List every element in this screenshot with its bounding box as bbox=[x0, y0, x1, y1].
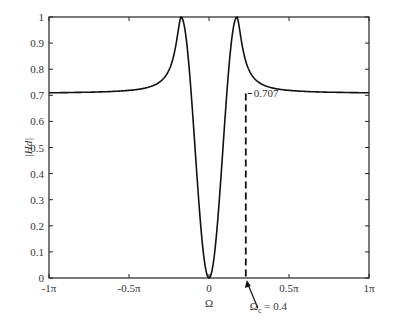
y-tick-label: 0.1 bbox=[30, 246, 44, 258]
x-tick-label: 1π bbox=[363, 282, 375, 294]
plot-frame bbox=[49, 17, 369, 278]
magnitude-response-chart: 00.10.20.30.40.50.60.70.80.91-1π-0.5π00.… bbox=[0, 0, 395, 321]
y-tick-label: 0.7 bbox=[30, 89, 44, 101]
y-tick-label: 0.4 bbox=[30, 168, 44, 180]
level-annotation: 0.707 bbox=[254, 87, 279, 99]
x-tick-label: 0 bbox=[206, 282, 212, 294]
y-axis-label: |Hd| bbox=[22, 138, 34, 158]
y-tick-label: 0.2 bbox=[30, 220, 44, 232]
cutoff-value: = 0.4 bbox=[262, 300, 288, 312]
x-tick-label: -0.5π bbox=[118, 282, 141, 294]
x-tick-label: -1π bbox=[42, 282, 57, 294]
y-tick-label: 0.9 bbox=[30, 37, 44, 49]
axes bbox=[49, 17, 369, 278]
y-tick-label: 0.3 bbox=[30, 194, 44, 206]
y-tick-label: 0.8 bbox=[30, 63, 44, 75]
x-tick-label: 0.5π bbox=[279, 282, 299, 294]
cutoff-omega: Ω bbox=[250, 300, 258, 312]
arrowhead-icon bbox=[245, 280, 251, 288]
magnitude-curve bbox=[49, 17, 369, 278]
y-tick-label: 1 bbox=[39, 11, 45, 23]
x-axis-label: Ω bbox=[205, 297, 213, 309]
cutoff-annotation: Ωc = 0.4 bbox=[250, 300, 288, 315]
y-tick-label: 0.6 bbox=[30, 115, 44, 127]
